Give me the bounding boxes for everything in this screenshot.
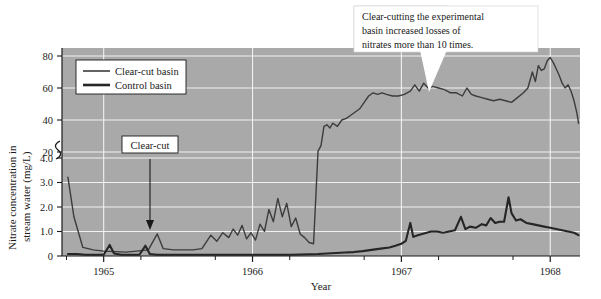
y-axis-title-line1: Nitrate concentration in — [6, 145, 18, 250]
legend-label-clear-cut-basin: Clear-cut basin — [115, 66, 179, 77]
callout-line-2: basin increased losses of — [362, 25, 461, 36]
y-axis-title: Nitrate concentration in stream water (m… — [6, 145, 33, 250]
y-tick-label-1.0: 1.0 — [40, 226, 53, 237]
y-tick-label-0: 0 — [48, 251, 53, 262]
y-tick-label-2.0: 2.0 — [40, 202, 53, 213]
nitrate-concentration-chart-figure: 01.02.03.04.020406080 1965196619671968 N… — [0, 0, 601, 299]
y-tick-label-40: 40 — [43, 115, 54, 126]
y-tick-label-80: 80 — [43, 51, 54, 62]
x-tick-label-1966: 1966 — [242, 266, 263, 277]
x-tick-label-1967: 1967 — [391, 266, 412, 277]
x-tick-label-1968: 1968 — [540, 266, 561, 277]
callout-line-3: nitrates more than 10 times. — [362, 39, 473, 50]
legend-label-control-basin: Control basin — [115, 80, 173, 91]
chart-svg: 01.02.03.04.020406080 1965196619671968 N… — [0, 0, 601, 299]
y-axis-title-line2: stream water (mg/L) — [20, 151, 33, 242]
clear-cut-label-text: Clear-cut — [131, 140, 170, 151]
x-axis-title: Year — [311, 280, 332, 292]
y-tick-label-60: 60 — [43, 83, 54, 94]
y-tick-label-3.0: 3.0 — [40, 177, 53, 188]
legend: Clear-cut basin Control basin — [76, 60, 186, 94]
y-tick-label-20: 20 — [43, 147, 54, 158]
x-tick-label-1965: 1965 — [93, 266, 114, 277]
callout-line-1: Clear-cutting the experimental — [362, 11, 484, 22]
